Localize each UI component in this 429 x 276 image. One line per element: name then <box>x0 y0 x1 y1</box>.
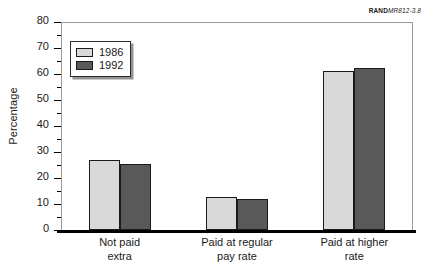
x-axis-category-label: Paid at higherrate <box>296 236 413 263</box>
legend-label-1992: 1992 <box>99 60 123 71</box>
y-axis-title-text: Percentage <box>7 87 19 144</box>
y-axis-tick-mark <box>54 126 61 128</box>
y-axis-tick-label: 50 <box>37 93 49 104</box>
legend-label-1986: 1986 <box>99 47 123 58</box>
y-axis-tick-mark <box>54 74 61 76</box>
bar-group <box>296 22 413 230</box>
legend-item-1986: 1986 <box>76 46 123 59</box>
y-axis-tick-mark <box>54 100 61 102</box>
y-axis-tick-mark <box>54 204 61 206</box>
x-axis-baseline <box>57 230 416 233</box>
chart-legend: 19861992 <box>70 41 131 77</box>
y-axis-tick-label: 40 <box>37 119 49 130</box>
y-axis-tick-label: 70 <box>37 41 49 52</box>
y-axis-tick-label: 80 <box>37 15 49 26</box>
source-tag-document-id: MR812-3.8 <box>388 7 421 14</box>
y-axis-tick-label: 0 <box>43 223 49 234</box>
bar-1992-0 <box>120 164 151 230</box>
x-axis-category-label-line: Paid at regular <box>178 236 295 250</box>
x-axis-category-label-line: Not paid <box>61 236 178 250</box>
x-axis-category-label-line: extra <box>61 250 178 264</box>
y-axis-tick-mark <box>54 48 61 50</box>
bar-1986-2 <box>323 71 354 230</box>
bar-1986-1 <box>206 197 237 230</box>
x-axis-category-label: Not paidextra <box>61 236 178 263</box>
bar-1992-1 <box>237 199 268 230</box>
y-axis-tick-label: 10 <box>37 197 49 208</box>
legend-item-1992: 1992 <box>76 59 123 72</box>
x-axis-labels: Not paidextraPaid at regularpay ratePaid… <box>61 236 413 274</box>
y-axis-title: Percentage <box>6 0 20 232</box>
x-axis-category-label-line: rate <box>296 250 413 264</box>
y-axis-tick-label: 30 <box>37 145 49 156</box>
y-axis-tick-label: 20 <box>37 171 49 182</box>
source-tag: RANDMR812-3.8 <box>369 8 421 15</box>
legend-swatch-1986 <box>76 48 93 57</box>
x-axis-category-label-line: Paid at higher <box>296 236 413 250</box>
x-axis-category-label-line: pay rate <box>178 250 295 264</box>
bar-1992-2 <box>354 68 385 231</box>
y-axis-tick-label: 60 <box>37 67 49 78</box>
bar-group <box>178 22 295 230</box>
y-axis-tick-mark <box>54 22 61 24</box>
legend-swatch-1992 <box>76 61 93 70</box>
x-axis-category-label: Paid at regularpay rate <box>178 236 295 263</box>
y-axis-tick-mark <box>54 178 61 180</box>
bar-1986-0 <box>89 160 120 230</box>
source-tag-brand: RAND <box>369 7 388 14</box>
y-axis-tick-mark <box>54 152 61 154</box>
